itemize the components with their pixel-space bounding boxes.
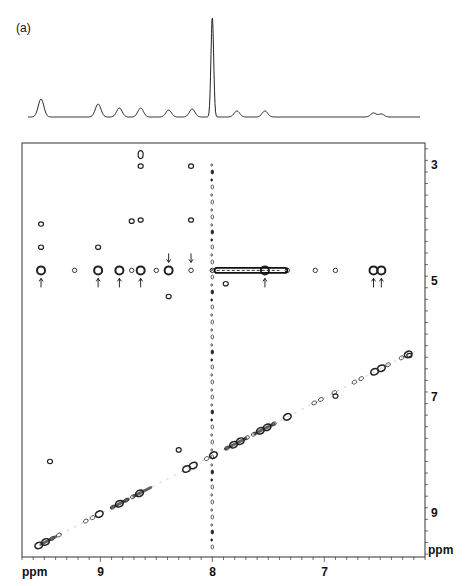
x-tick-label: 9 <box>97 565 104 579</box>
x-axis-ticks <box>22 557 425 562</box>
y-tick-label: 7 <box>431 390 438 404</box>
1d-projection-spectrum <box>28 18 420 117</box>
cross-peaks <box>37 151 412 464</box>
x-tick-label: 7 <box>321 565 328 579</box>
panel-label: (a) <box>16 21 31 35</box>
x-axis-unit-label: ppm <box>22 565 47 579</box>
y-tick-label: 5 <box>431 274 438 288</box>
plot-frame <box>22 143 425 557</box>
diagonal-peaks <box>34 350 413 550</box>
nmr-figure <box>0 0 467 586</box>
t1-noise-ridge <box>211 164 214 549</box>
x-tick-label: 8 <box>209 565 216 579</box>
y-tick-label: 9 <box>431 506 438 520</box>
y-axis-unit-label: ppm <box>428 543 453 557</box>
y-tick-label: 3 <box>431 158 438 172</box>
